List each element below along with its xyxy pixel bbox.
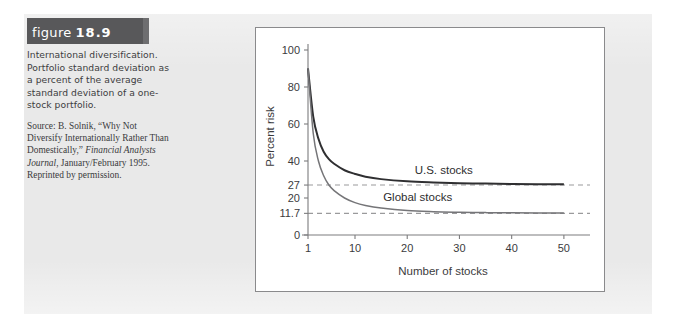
y-tick-label-4: 40 bbox=[288, 155, 300, 167]
x-tick-label-1: 10 bbox=[349, 242, 361, 254]
risk-diversification-chart: 011.7202740608010011020304050Number of s… bbox=[256, 28, 604, 291]
figure-source-note: Source: B. Solnik, “Why Not Diversify In… bbox=[27, 120, 174, 181]
y-axis-title: Percent risk bbox=[264, 106, 276, 167]
y-tick-label-5: 60 bbox=[288, 118, 300, 130]
us-stocks-label: U.S. stocks bbox=[415, 164, 473, 176]
figure-banner-word: figure bbox=[32, 25, 72, 40]
x-tick-label-3: 30 bbox=[453, 242, 465, 254]
figure-banner-text: figure18.9 bbox=[32, 25, 112, 40]
figure-banner-number: 18.9 bbox=[76, 25, 112, 40]
x-tick-label-2: 20 bbox=[401, 242, 413, 254]
banner-accent-bar bbox=[143, 18, 149, 44]
figure-caption: International diversification. Portfolio… bbox=[27, 49, 173, 112]
chart-panel: 011.7202740608010011020304050Number of s… bbox=[255, 27, 605, 292]
figure-page: figure18.9 International diversification… bbox=[0, 0, 674, 332]
y-tick-label-6: 80 bbox=[288, 81, 300, 93]
global-stocks-label: Global stocks bbox=[383, 191, 452, 203]
figure-banner: figure18.9 bbox=[27, 18, 149, 44]
y-tick-label-0: 0 bbox=[294, 229, 300, 241]
x-tick-label-4: 40 bbox=[506, 242, 518, 254]
y-tick-label-3: 27 bbox=[288, 179, 300, 191]
caption-column: figure18.9 International diversification… bbox=[27, 18, 177, 181]
y-tick-label-2: 20 bbox=[288, 192, 300, 204]
x-tick-label-0: 1 bbox=[305, 242, 311, 254]
y-tick-label-7: 100 bbox=[282, 44, 300, 56]
x-tick-label-5: 50 bbox=[558, 242, 570, 254]
y-tick-label-1: 11.7 bbox=[279, 207, 300, 219]
x-axis-title: Number of stocks bbox=[398, 265, 488, 277]
